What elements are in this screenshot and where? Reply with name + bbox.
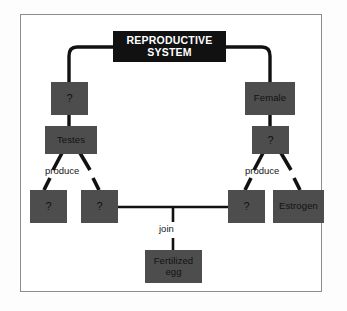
connector-ovaries-to-estrogen	[281, 153, 291, 170]
diagram-canvas: REPRODUCTIVE SYSTEM ? Testes produce ? ?…	[0, 0, 347, 311]
connector-estrogen-stem	[294, 178, 300, 190]
node-male-unknown[interactable]: ?	[51, 82, 88, 115]
node-ovaries-unknown[interactable]: ?	[252, 126, 289, 154]
connector-testosterone-stem	[93, 178, 99, 190]
node-testes[interactable]: Testes	[45, 126, 97, 154]
connector-testes-to-testosterone	[80, 153, 90, 170]
node-label-root: REPRODUCTIVE SYSTEM	[113, 35, 226, 58]
connector-root-to-female	[226, 47, 270, 82]
node-estrogen[interactable]: Estrogen	[273, 190, 324, 223]
link-label-produce-left: produce	[45, 166, 79, 176]
node-testosterone-unknown[interactable]: ?	[81, 190, 118, 223]
node-female[interactable]: Female	[245, 82, 295, 115]
connector-sperm-stem	[44, 178, 50, 190]
node-label-estrogen: Estrogen	[279, 201, 318, 212]
node-label-ovaries: ?	[267, 135, 273, 146]
node-label-egg: ?	[243, 201, 249, 212]
node-sperm-unknown[interactable]: ?	[30, 190, 67, 223]
node-fertilized-egg[interactable]: Fertilized egg	[145, 250, 202, 283]
node-label-testes: Testes	[57, 135, 85, 146]
connector-root-to-male	[69, 47, 113, 82]
node-label-testosterone: ?	[96, 201, 102, 212]
node-reproductive-system[interactable]: REPRODUCTIVE SYSTEM	[113, 31, 226, 62]
node-label-male: ?	[66, 93, 72, 104]
connector-egg-stem	[245, 178, 251, 190]
node-label-fertilized-egg: Fertilized egg	[145, 256, 202, 277]
link-label-produce-right: produce	[245, 166, 279, 176]
link-label-join: join	[159, 224, 174, 234]
node-label-female: Female	[254, 93, 286, 104]
node-label-sperm: ?	[45, 201, 51, 212]
node-egg-unknown[interactable]: ?	[228, 190, 265, 223]
